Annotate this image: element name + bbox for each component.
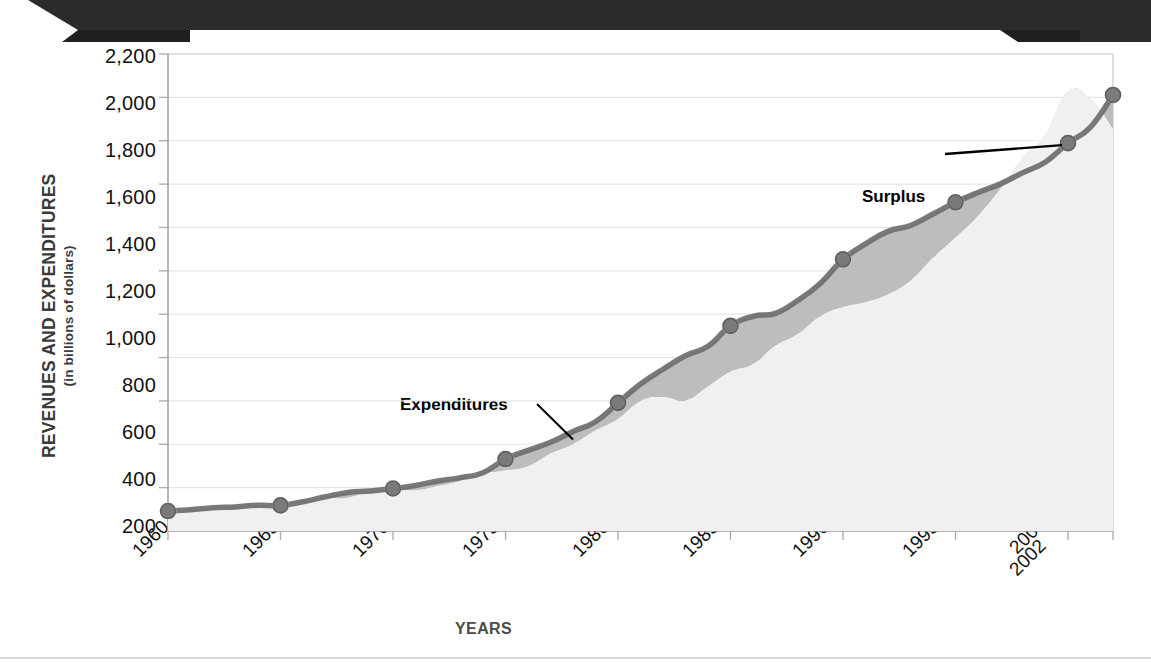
- banner-title-text: [0, 0, 1151, 4]
- banner-ribbon-shape: [0, 0, 1151, 42]
- revenues-area: [168, 89, 1113, 531]
- plot-canvas: [0, 42, 1151, 663]
- chart-page: REVENUES AND EXPENDITURES (in billions o…: [0, 0, 1151, 663]
- bottom-divider: [0, 657, 1151, 659]
- expenditures-leader-line: [537, 404, 573, 439]
- chart-container: REVENUES AND EXPENDITURES (in billions o…: [0, 42, 1151, 663]
- title-banner: [0, 0, 1151, 42]
